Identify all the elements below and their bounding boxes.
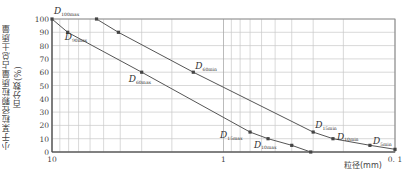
data-point-marker xyxy=(290,144,293,147)
y-tick-label: 50 xyxy=(39,82,49,91)
x-tick-label: 0. 1 xyxy=(388,155,402,164)
annotation-D100max: D100max xyxy=(53,6,80,17)
y-tick-label: 10 xyxy=(39,135,49,144)
data-point-marker xyxy=(266,137,269,140)
data-point-marker xyxy=(312,130,315,133)
annotation-D5min: D5min xyxy=(372,136,392,147)
annotation-D15min: D15min xyxy=(314,120,337,131)
data-point-marker xyxy=(393,148,396,151)
data-point-marker xyxy=(140,71,143,74)
x-axis-label: 粒径(mm) xyxy=(344,159,382,170)
gradation-chart: 0102030405060708090100 1010. 1 D100maxD9… xyxy=(0,0,408,181)
y-tick-label: 30 xyxy=(39,108,49,117)
y-tick-label: 60 xyxy=(39,68,49,77)
annotation-D10max: D10max xyxy=(253,140,277,151)
data-point-marker xyxy=(117,31,120,34)
y-tick-label: 100 xyxy=(35,15,50,24)
data-point-marker xyxy=(50,17,53,20)
data-point-marker xyxy=(331,137,334,140)
annotation-D10min: D10min xyxy=(336,132,359,143)
y-tick-label: 80 xyxy=(39,42,49,51)
y-axis-label: 小于某粒径颗粒质量占总土质量百分数(%) xyxy=(2,22,34,152)
data-point-marker xyxy=(248,130,251,133)
y-axis-ticks: 0102030405060708090100 xyxy=(35,15,50,157)
annotation-D60min: D60min xyxy=(194,61,217,72)
x-tick-label: 1 xyxy=(221,155,226,164)
y-tick-label: 90 xyxy=(39,28,49,37)
data-point-marker xyxy=(95,17,98,20)
data-point-marker xyxy=(309,150,312,153)
x-tick-label: 10 xyxy=(47,155,57,164)
data-point-marker xyxy=(368,144,371,147)
annotation-D90max: D90max xyxy=(64,32,88,43)
y-tick-label: 20 xyxy=(39,121,49,130)
y-tick-label: 70 xyxy=(39,55,49,64)
y-tick-label: 40 xyxy=(39,95,49,104)
